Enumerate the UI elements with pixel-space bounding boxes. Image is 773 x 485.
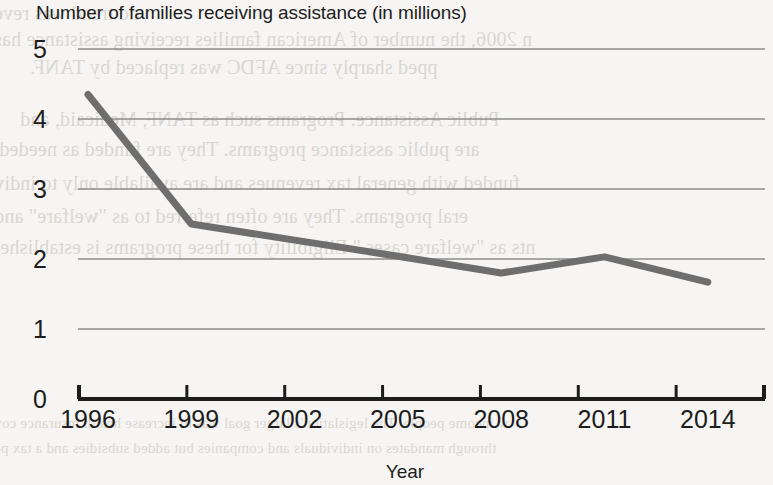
x-axis-label: Year <box>386 461 425 482</box>
y-axis-tick-labels: 012345 <box>33 35 47 413</box>
x-tick-label: 1996 <box>60 405 116 433</box>
x-axis <box>78 385 765 399</box>
y-tick-label: 0 <box>33 385 47 413</box>
y-tick-label: 4 <box>33 105 47 133</box>
y-tick-label: 5 <box>33 35 47 63</box>
line-chart: Number of families receiving assistance … <box>0 0 773 485</box>
chart-canvas: 012345 1996199920022005200820112014 Year <box>0 0 773 485</box>
x-tick-label: 2014 <box>680 405 736 433</box>
x-tick-label: 2011 <box>578 405 632 433</box>
gridlines <box>78 49 765 329</box>
x-axis-tick-labels: 1996199920022005200820112014 <box>60 405 736 433</box>
x-tick-label: 1999 <box>163 405 219 433</box>
x-tick-label: 2002 <box>267 405 323 433</box>
x-tick-label: 2005 <box>370 405 426 433</box>
y-tick-label: 3 <box>33 175 47 203</box>
x-tick-label: 2008 <box>473 405 529 433</box>
y-tick-label: 2 <box>33 245 47 273</box>
y-tick-label: 1 <box>33 315 47 343</box>
